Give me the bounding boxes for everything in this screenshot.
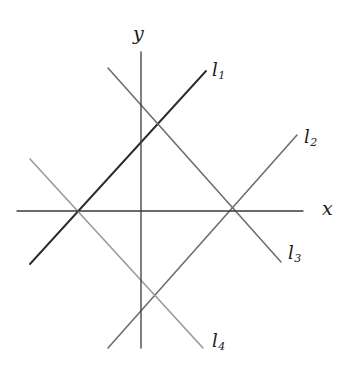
line-l2 xyxy=(108,135,297,348)
line-label-l4: l4 xyxy=(212,332,225,350)
line-label-l2-subscript: 2 xyxy=(310,136,317,149)
line-label-l1-letter: l xyxy=(212,59,218,80)
line-group xyxy=(30,68,297,348)
line-diagram-figure: y x l1 l2 l3 l4 xyxy=(0,0,353,386)
line-label-l1: l1 xyxy=(212,61,225,79)
line-label-l3-subscript: 3 xyxy=(294,252,301,265)
line-l4 xyxy=(30,159,203,348)
x-axis-label: x xyxy=(322,199,333,218)
line-label-l3-letter: l xyxy=(288,242,294,263)
line-label-l2-letter: l xyxy=(304,126,310,147)
diagram-canvas xyxy=(0,0,353,386)
line-label-l1-subscript: 1 xyxy=(218,69,225,82)
line-label-l3: l3 xyxy=(288,244,301,262)
line-label-l4-letter: l xyxy=(212,330,218,351)
axis-group xyxy=(17,52,303,348)
line-label-l2: l2 xyxy=(304,128,317,146)
line-label-l4-subscript: 4 xyxy=(218,340,225,353)
line-l3 xyxy=(108,68,281,262)
y-axis-label: y xyxy=(133,24,144,43)
line-l1 xyxy=(30,71,206,264)
